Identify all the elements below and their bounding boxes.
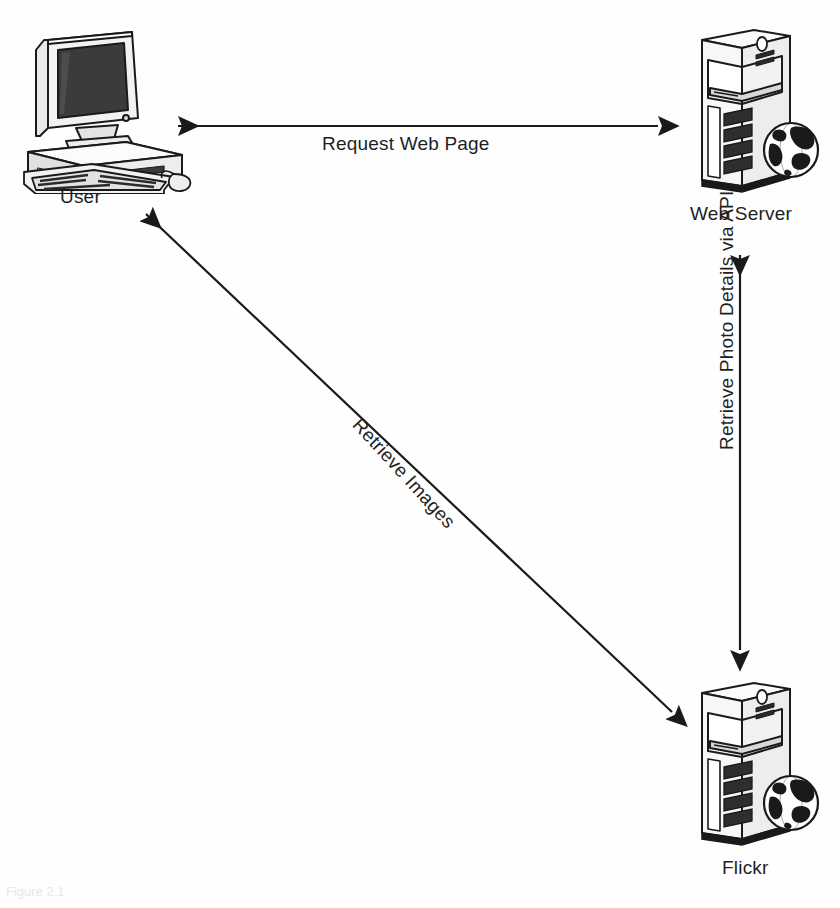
node-flickr[interactable] [690, 675, 830, 859]
diagram-canvas: User [0, 0, 840, 908]
edge-label-retrieve-photo-details: Retrieve Photo Details via API [716, 191, 738, 450]
globe-icon [764, 776, 818, 830]
node-user[interactable] [14, 22, 204, 198]
server-tower-with-globe-icon [690, 675, 830, 855]
figure-caption: Figure 2.1 [6, 884, 65, 899]
node-label-flickr: Flickr [722, 857, 769, 879]
node-web-server[interactable] [690, 22, 830, 206]
node-label-user: User [60, 186, 101, 208]
edge-label-request-web-page: Request Web Page [322, 133, 490, 155]
desktop-computer-icon [14, 22, 204, 194]
server-tower-with-globe-icon [690, 22, 830, 202]
node-label-web-server: Web Server [690, 203, 792, 225]
globe-icon [764, 123, 818, 177]
